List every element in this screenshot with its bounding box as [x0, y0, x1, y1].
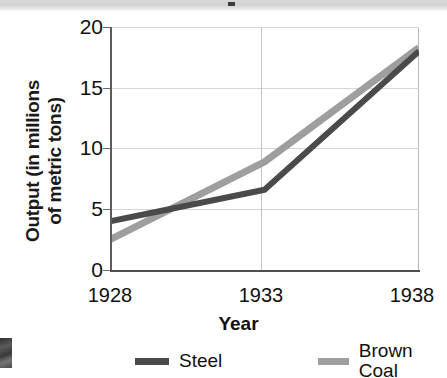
- y-tick-15: [103, 88, 110, 89]
- x-axis-title: Year: [0, 313, 447, 335]
- legend-item-steel: Steel: [135, 351, 222, 371]
- y-tick-20: [103, 27, 110, 28]
- y-tick-0: [103, 270, 110, 271]
- x-tick-label-1928: 1928: [70, 284, 150, 306]
- legend-swatch-steel: [135, 358, 169, 365]
- chart-figure: Output (in millions of metric tons) 20 1…: [0, 0, 447, 378]
- y-tick-label-0: 0: [55, 259, 103, 280]
- legend-label-steel: Steel: [179, 351, 222, 371]
- legend-item-brown-coal: Brown Coal: [318, 341, 447, 378]
- y-tick-label-10: 10: [55, 137, 103, 158]
- y-tick-label-20: 20: [55, 16, 103, 37]
- x-axis-title-text: Year: [218, 313, 258, 335]
- y-axis-title-line1: Output (in millions: [22, 80, 44, 242]
- x-axis-tick-labels: 1928 1933 1938: [0, 284, 447, 308]
- legend-label-brown-coal: Brown Coal: [359, 341, 447, 378]
- x-tick-label-1938: 1938: [372, 284, 447, 306]
- legend-swatch-brown-coal: [318, 358, 349, 365]
- y-tick-label-5: 5: [55, 198, 103, 219]
- line-steel: [110, 51, 419, 221]
- title-band-mark: [228, 2, 235, 6]
- y-axis-line: [110, 27, 112, 272]
- y-tick-5: [103, 209, 110, 210]
- plot-area: [110, 27, 419, 270]
- x-tick-label-1933: 1933: [221, 284, 301, 306]
- x-axis-line: [110, 270, 420, 272]
- y-tick-10: [103, 148, 110, 149]
- legend: Steel Brown Coal: [0, 348, 447, 374]
- series-lines: [110, 27, 419, 270]
- y-tick-label-15: 15: [55, 77, 103, 98]
